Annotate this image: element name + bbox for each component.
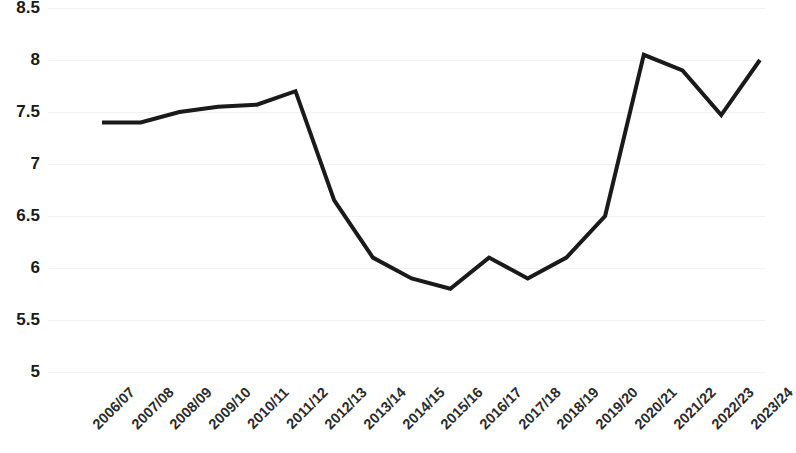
y-tick-label: 7.5 [16,102,40,122]
x-tick-label: 2016/17 [476,384,524,432]
y-tick-label: 6.5 [16,206,40,226]
x-tick-label: 2018/19 [554,384,602,432]
plot-area [48,0,765,380]
y-tick-label: 5.5 [16,310,40,330]
x-tick-label: 2015/16 [438,384,486,432]
data-series-line [102,55,760,289]
x-tick-label: 2012/13 [322,384,370,432]
x-tick-label: 2013/14 [360,384,408,432]
x-tick-label: 2014/15 [399,384,447,432]
x-tick-label: 2009/10 [205,384,253,432]
x-tick-label: 2006/07 [89,384,137,432]
x-axis: 2006/072007/082008/092009/102010/112011/… [0,380,765,453]
y-tick-label: 6 [31,258,40,278]
y-tick-label: 8.5 [16,0,40,18]
y-tick-label: 8 [31,50,40,70]
y-tick-label: 5 [31,362,40,382]
x-tick-label: 2007/08 [128,384,176,432]
series-line-chart [48,0,765,380]
x-tick-label: 2023/24 [747,384,795,432]
x-tick-label: 2021/22 [670,384,718,432]
x-tick-label: 2019/20 [592,384,640,432]
y-tick-label: 7 [31,154,40,174]
x-tick-label: 2022/23 [709,384,757,432]
x-tick-label: 2017/18 [515,384,563,432]
x-tick-label: 2010/11 [244,384,292,432]
x-tick-label: 2011/12 [283,384,331,432]
x-tick-label: 2008/09 [167,384,215,432]
x-tick-label: 2020/21 [631,384,679,432]
